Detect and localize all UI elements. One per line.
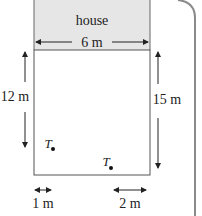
- bottom-right-dimension: 2 m: [114, 190, 146, 211]
- right-length-dimension: 15 m: [153, 52, 182, 168]
- svg-text:T: T: [102, 154, 110, 169]
- garden-diagram: house 6 m 12 m 15 m 1 m 2 m T T: [0, 0, 202, 216]
- svg-text:12 m: 12 m: [1, 89, 30, 104]
- svg-text:1 m: 1 m: [32, 196, 54, 211]
- bottom-left-dimension: 1 m: [32, 190, 54, 211]
- svg-text:15 m: 15 m: [153, 92, 182, 107]
- svg-text:2 m: 2 m: [119, 196, 141, 211]
- garden-rectangle: [34, 50, 150, 175]
- frame-border: [178, 0, 195, 216]
- left-length-dimension: 12 m: [1, 52, 30, 147]
- house-label: house: [76, 13, 109, 28]
- svg-text:6 m: 6 m: [81, 35, 103, 50]
